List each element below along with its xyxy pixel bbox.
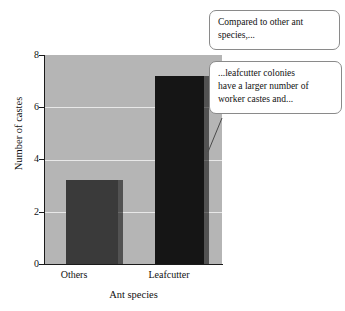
y-tick-mark-6	[39, 107, 44, 108]
y-tick-mark-2	[39, 212, 44, 213]
y-tick-mark-8	[39, 55, 44, 56]
callout-compared-to-other-ant-species: Compared to other ant species,...	[209, 10, 340, 50]
plot-area	[45, 55, 222, 264]
callout-2-line-3: worker castes and...	[218, 93, 334, 106]
x-tick-label-leafcutter: Leafcutter	[133, 269, 205, 281]
x-axis-title: Ant species	[45, 289, 222, 300]
x-axis-line	[44, 264, 223, 265]
y-tick-label-2: 2	[5, 207, 39, 217]
x-tick-label-others: Others	[44, 269, 104, 281]
y-tick-label-0: 0	[5, 259, 39, 269]
bar-leafcutter[interactable]	[155, 76, 204, 264]
callout-1-line-1: Compared to other ant	[218, 16, 332, 29]
y-axis-line	[44, 55, 45, 265]
y-tick-label-8: 8	[5, 50, 39, 60]
bar-others[interactable]	[66, 180, 118, 264]
callout-2-line-1: ...leafcutter colonies	[218, 67, 334, 80]
y-tick-mark-0	[39, 264, 44, 265]
callout-2-line-2: have a larger number of	[218, 80, 334, 93]
y-axis-title: Number of castes	[13, 69, 24, 199]
y-tick-mark-4	[39, 159, 44, 160]
callout-1-line-2: species,...	[218, 29, 332, 42]
callout-leafcutter-colonies: ...leafcutter colonies have a larger num…	[209, 61, 342, 114]
chart-screenshot: 8 6 4 2 0 Others Leafcutter Number of ca…	[0, 0, 345, 311]
